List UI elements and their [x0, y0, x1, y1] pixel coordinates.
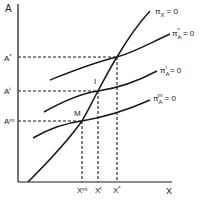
curve-label-pi-a-i: πAi= 0: [160, 64, 182, 77]
curve-label-pi-x: πX= 0: [155, 7, 178, 18]
curve-label-pi-a-m: πAm= 0: [153, 92, 176, 105]
y-tick-a-star: A*: [4, 53, 12, 63]
curve-pi-x: [28, 11, 150, 182]
x-tick-x-i: Xi: [95, 185, 102, 195]
curve-label-pi-a-star: πA*= 0: [172, 27, 195, 40]
curve-pi-a-m: [33, 100, 150, 138]
point-label-i: I: [94, 77, 96, 86]
x-tick-x-star: X*: [113, 185, 121, 195]
y-axis-label: A: [5, 3, 12, 14]
x-tick-x-m: Xm: [77, 186, 87, 195]
x-axis-label: X: [166, 186, 172, 196]
point-label-m: M: [74, 109, 81, 118]
y-tick-a-m: Am: [4, 117, 14, 126]
y-tick-a-i: Ai: [4, 86, 11, 96]
diagram-canvas: A X A* Ai Am Xm Xi X* I M πX= 0 πA*= 0: [0, 0, 200, 203]
